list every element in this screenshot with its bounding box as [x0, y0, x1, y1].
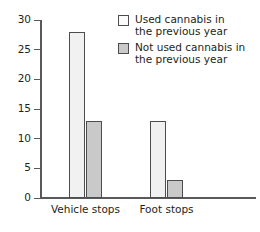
- bar-chart-figure: 302520151050 Vehicle stopsFoot stops Use…: [0, 0, 260, 232]
- legend-swatch-dark: [118, 43, 129, 54]
- legend-item-label: Used cannabis in the previous year: [135, 14, 227, 37]
- x-axis-category-label: Foot stops: [122, 203, 212, 215]
- y-axis-tick-label: 15: [0, 103, 31, 114]
- bar-not-used-cannabis: [86, 121, 102, 198]
- x-axis-category-label: Vehicle stops: [41, 203, 131, 215]
- y-axis-tick-label: 30: [0, 14, 31, 25]
- y-axis-tick-label: 0: [0, 192, 31, 203]
- legend-item: Used cannabis in the previous year: [118, 14, 245, 37]
- legend-item-label: Not used cannabis in the previous year: [135, 42, 245, 65]
- y-axis-tick-label: 20: [0, 73, 31, 84]
- y-axis-tick-label: 5: [0, 162, 31, 173]
- legend-swatch-light: [118, 15, 129, 26]
- y-axis-tick-label: 25: [0, 44, 31, 55]
- bar-used-cannabis: [150, 121, 166, 198]
- chart-legend: Used cannabis in the previous yearNot us…: [118, 14, 245, 70]
- y-axis-tick-label: 10: [0, 133, 31, 144]
- clipped-caption-text: [4, 0, 124, 4]
- legend-item: Not used cannabis in the previous year: [118, 42, 245, 65]
- bar-used-cannabis: [69, 32, 85, 198]
- bar-not-used-cannabis: [167, 180, 183, 198]
